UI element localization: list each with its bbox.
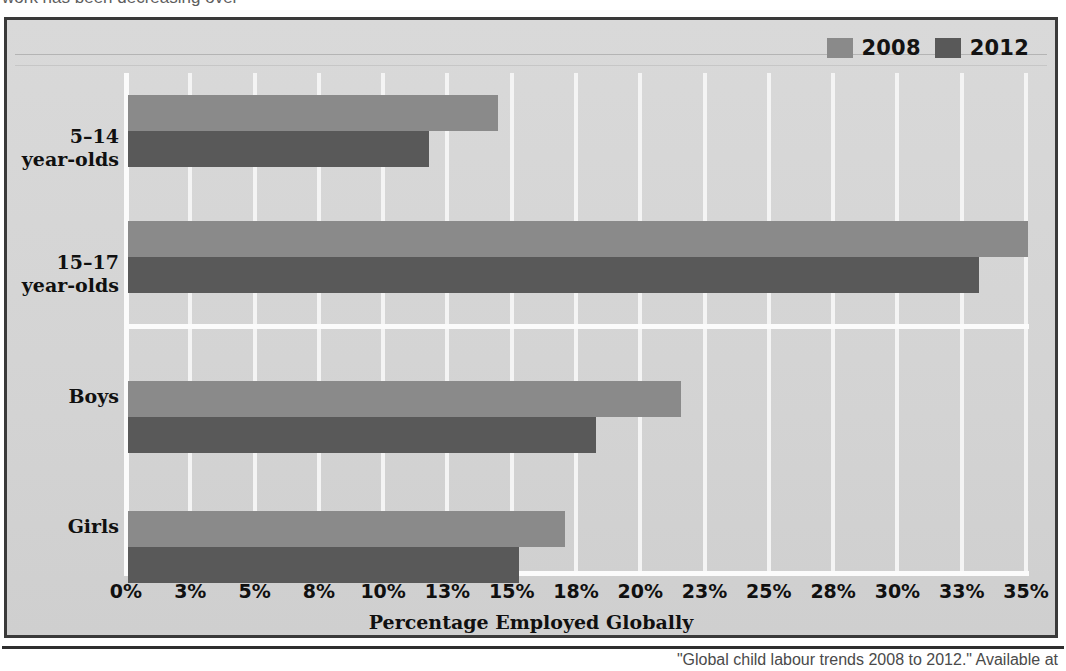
x-tick-label-10: 10% xyxy=(360,580,405,602)
category-label-5-14-line1: 5–14 xyxy=(0,125,119,148)
x-tick-label-33: 33% xyxy=(939,580,984,602)
bar-2008-5-14-year-olds xyxy=(128,95,498,131)
chart-legend: 2008 2012 xyxy=(827,36,1030,60)
category-label-boys-line1: Boys xyxy=(0,385,119,408)
x-tick-label-5: 5% xyxy=(238,580,270,602)
x-tick-label-30: 30% xyxy=(875,580,920,602)
x-tick-label-35: 35% xyxy=(1003,580,1048,602)
chart-figure-background: 2008 2012 5–14 year-olds 15–17 year-olds… xyxy=(7,20,1055,635)
bar-2008-15-17-year-olds xyxy=(128,221,1028,257)
legend-item-2012: 2012 xyxy=(935,36,1029,60)
bar-2008-girls xyxy=(128,511,565,547)
legend-swatch-2012 xyxy=(935,38,961,58)
x-tick-label-23: 23% xyxy=(682,580,727,602)
bar-2012-15-17-year-olds xyxy=(128,257,979,293)
bar-2012-girls xyxy=(128,547,519,583)
bottom-partial-caption-value: "Global child labour trends 2008 to 2012… xyxy=(677,651,1058,669)
bar-2008-boys xyxy=(128,381,681,417)
chart-figure: 2008 2012 5–14 year-olds 15–17 year-olds… xyxy=(4,17,1058,638)
x-tick-label-18: 18% xyxy=(553,580,598,602)
group-separator-rule xyxy=(124,324,1029,329)
category-label-5-14-line2: year-olds xyxy=(0,148,119,171)
caption-divider xyxy=(2,646,1064,649)
top-partial-text-value: work has been decreasing over xyxy=(2,0,238,8)
y-axis-category-labels: 5–14 year-olds 15–17 year-olds Boys Girl… xyxy=(0,73,119,574)
x-tick-label-0: 0% xyxy=(110,580,142,602)
category-label-girls-line1: Girls xyxy=(0,515,119,538)
category-label-5-14: 5–14 year-olds xyxy=(0,125,119,171)
x-axis-tick-labels: 0%3%5%8%10%13%15%18%20%23%25%28%30%33%35… xyxy=(124,580,1029,606)
category-label-boys: Boys xyxy=(0,385,119,408)
category-label-15-17-line2: year-olds xyxy=(0,274,119,297)
bottom-partial-caption: "Global child labour trends 2008 to 2012… xyxy=(0,651,1066,671)
category-label-girls: Girls xyxy=(0,515,119,538)
legend-swatch-2008 xyxy=(827,38,853,58)
top-partial-text: work has been decreasing over xyxy=(0,0,1066,14)
plot-area xyxy=(124,73,1029,574)
bar-2012-boys xyxy=(128,417,596,453)
legend-rule-lower xyxy=(15,65,1047,66)
legend-label-2012: 2012 xyxy=(970,36,1029,60)
legend-label-2008: 2008 xyxy=(862,36,921,60)
category-label-15-17: 15–17 year-olds xyxy=(0,251,119,297)
x-axis-title: Percentage Employed Globally xyxy=(7,611,1055,633)
x-tick-label-13: 13% xyxy=(425,580,470,602)
legend-item-2008: 2008 xyxy=(827,36,921,60)
x-tick-label-8: 8% xyxy=(303,580,335,602)
x-tick-label-3: 3% xyxy=(174,580,206,602)
x-tick-label-15: 15% xyxy=(489,580,534,602)
x-tick-label-25: 25% xyxy=(746,580,791,602)
category-label-15-17-line1: 15–17 xyxy=(0,251,119,274)
x-tick-label-28: 28% xyxy=(810,580,855,602)
bar-2012-5-14-year-olds xyxy=(128,131,429,167)
x-tick-label-20: 20% xyxy=(618,580,663,602)
